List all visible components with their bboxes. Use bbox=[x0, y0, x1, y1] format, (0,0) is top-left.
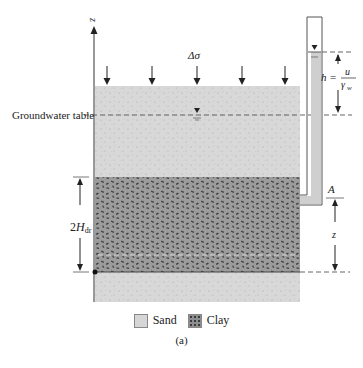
clay-layer bbox=[95, 177, 300, 272]
svg-text:u: u bbox=[345, 66, 350, 77]
point-a-label: A bbox=[327, 183, 335, 195]
clay-swatch-icon bbox=[188, 314, 202, 328]
figure-caption: (a) bbox=[0, 334, 363, 346]
depth-z-label: z bbox=[331, 229, 336, 240]
legend-label-sand: Sand bbox=[153, 313, 177, 328]
z-axis-arrow-icon bbox=[91, 26, 98, 34]
svg-text:=: = bbox=[330, 71, 336, 83]
drainage-thickness-label: 2Hdr bbox=[70, 220, 92, 235]
legend: Sand Clay bbox=[0, 313, 363, 332]
legend-item-clay: Clay bbox=[188, 313, 230, 328]
head-label: h bbox=[321, 71, 327, 83]
z-axis-label: z bbox=[88, 17, 99, 22]
svg-text:γ: γ bbox=[341, 79, 346, 90]
origin-dot bbox=[93, 270, 98, 275]
sand-swatch-icon bbox=[134, 314, 148, 328]
stress-increment-label: Δσ bbox=[187, 49, 200, 61]
sand-layer-top bbox=[95, 86, 300, 177]
sand-layer-bottom bbox=[95, 272, 300, 302]
load-arrows bbox=[107, 66, 285, 80]
svg-text:w: w bbox=[347, 84, 352, 92]
piezometer-tube bbox=[300, 17, 322, 205]
consolidation-diagram: z h = u γ w Δσ bbox=[0, 0, 363, 310]
groundwater-table-label: Groundwater table bbox=[12, 109, 94, 121]
legend-label-clay: Clay bbox=[207, 313, 230, 328]
legend-item-sand: Sand bbox=[134, 313, 177, 328]
